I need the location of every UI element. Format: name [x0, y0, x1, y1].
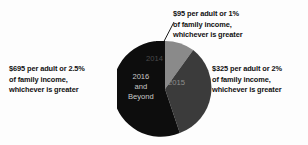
annotation-2016-line-1: $695 per adult or 2.5% [9, 64, 85, 75]
annotation-2014-line-1: $95 per adult or 1% [173, 9, 242, 20]
annotation-2014-line-2: of family income, [173, 20, 242, 31]
annotation-2015-line-2: of family income, [212, 75, 282, 86]
annotation-2016-and-beyond: $695 per adult or 2.5% of family income,… [9, 64, 85, 96]
pie-slices [117, 41, 213, 137]
annotation-2015-line-1: $325 per adult or 2% [212, 64, 282, 75]
pie-graphic: 2014 2015 2016 and Beyond [117, 41, 213, 137]
annotation-2016-line-3: whichever is greater [9, 85, 85, 96]
annotation-2015: $325 per adult or 2% of family income, w… [212, 64, 282, 96]
pie-chart-figure: $95 per adult or 1% of family income, wh… [0, 0, 308, 145]
annotation-2014-line-3: whichever is greater [173, 30, 242, 41]
annotation-2015-line-3: whichever is greater [212, 85, 282, 96]
annotation-2014: $95 per adult or 1% of family income, wh… [173, 9, 242, 41]
annotation-2016-line-2: of family income, [9, 75, 85, 86]
